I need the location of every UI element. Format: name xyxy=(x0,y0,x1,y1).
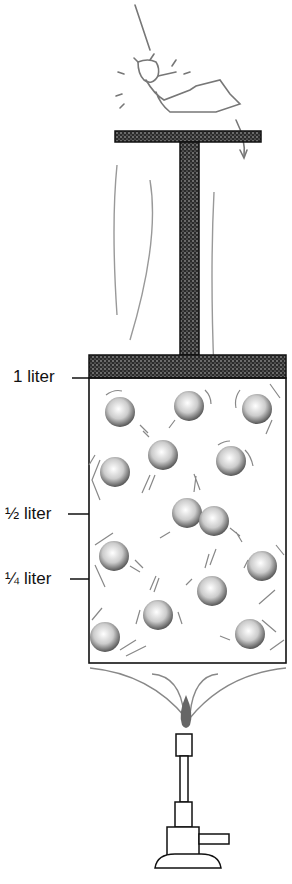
illustration xyxy=(0,0,292,884)
piston-handle xyxy=(115,131,261,142)
piston-rod xyxy=(180,142,199,355)
bunsen-burner xyxy=(155,734,229,868)
label-half-liter: ½ liter xyxy=(5,505,51,522)
piston-head xyxy=(89,355,286,378)
flame-icon xyxy=(181,695,192,728)
gas-molecules xyxy=(90,391,277,652)
label-quarter-liter: ¼ liter xyxy=(5,570,51,587)
label-1-liter: 1 liter xyxy=(13,368,55,385)
